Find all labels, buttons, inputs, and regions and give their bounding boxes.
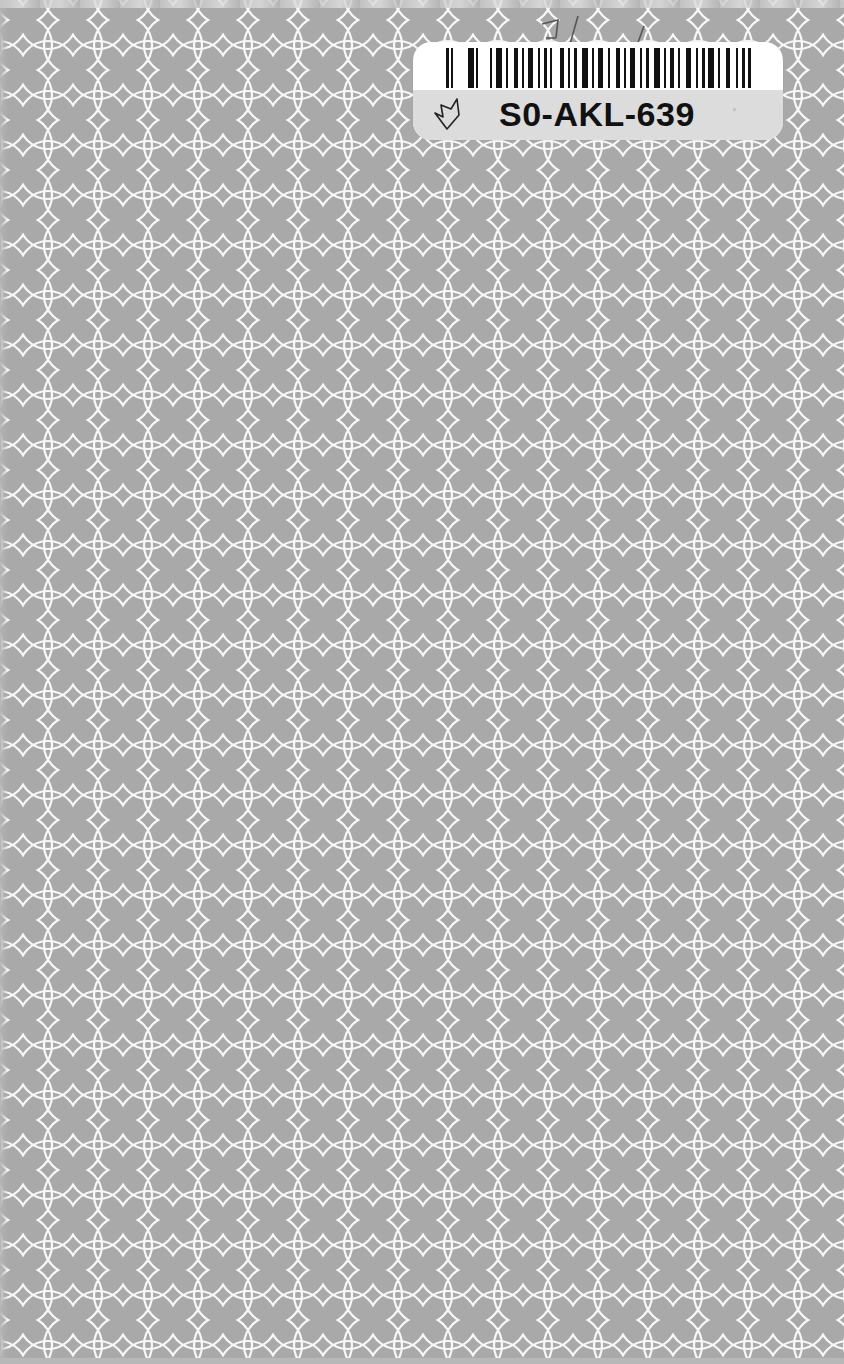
- label-code: S0-AKL-639: [499, 94, 695, 134]
- book-cover: S0-AKL-639: [0, 0, 844, 1364]
- circle-pattern: [0, 0, 844, 1364]
- label-speck: [733, 108, 736, 111]
- left-edge: [0, 0, 8, 1364]
- barcode-icon: [446, 46, 754, 90]
- top-edge: [0, 0, 844, 8]
- barcode-label: S0-AKL-639: [413, 42, 783, 140]
- checkmark-leaf-icon: [433, 97, 469, 133]
- bottom-edge: [0, 1358, 844, 1364]
